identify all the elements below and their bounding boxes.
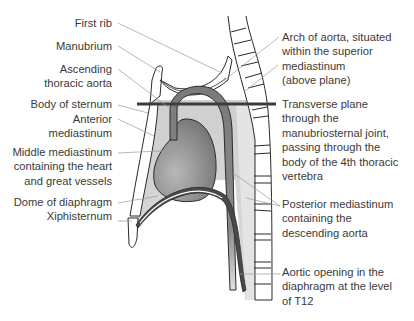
label-transverse-plane: Transverse plane through the manubrioste… — [282, 97, 398, 183]
label-middle-mediastinum: Middle mediastinum containing the heart … — [13, 145, 113, 188]
label-first-rib: First rib — [75, 16, 112, 30]
label-aortic-opening: Aortic opening in the diaphragm at the l… — [282, 265, 392, 308]
label-dome-of-diaphragm: Dome of diaphragm — [14, 195, 112, 209]
label-xiphisternum: Xiphisternum — [47, 209, 112, 223]
xiphisternum-shape — [128, 218, 138, 247]
label-anterior-mediastinum: Anterior mediastinum — [49, 112, 112, 141]
label-ascending-aorta: Ascending thoracic aorta — [44, 62, 112, 91]
label-arch-of-aorta: Arch of aorta, situated within the super… — [282, 30, 391, 88]
label-body-of-sternum: Body of sternum — [31, 97, 112, 111]
label-posterior-mediastinum: Posterior mediastinum containing the des… — [282, 197, 393, 240]
label-manubrium: Manubrium — [56, 39, 112, 53]
